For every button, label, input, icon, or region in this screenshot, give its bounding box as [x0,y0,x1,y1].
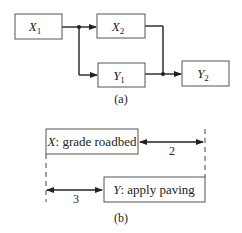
caption-a: (a) [114,92,127,106]
activity-y: Y: apply paving [104,177,205,202]
node-x2: X2 [97,14,145,38]
diagram-a: X1 X2 Y1 Y2 (a) [15,14,229,106]
diagram-canvas: X1 X2 Y1 Y2 (a) X: grade roadbed Y: appl… [0,0,242,233]
activity-x: X: grade roadbed [46,129,138,154]
node-x1: X1 [15,14,62,39]
connector-merge-y2 [145,26,181,76]
lag-finish-value: 2 [169,144,175,158]
lag-start-value: 3 [73,192,79,206]
junction-dot-merge [161,72,165,76]
node-y1: Y1 [98,63,145,87]
lag-arrow-start: 3 [47,190,102,206]
junction-dot-split [77,25,81,29]
caption-b: (b) [114,211,128,225]
svg-text:X: grade roadbed: X: grade roadbed [47,134,137,149]
node-y2: Y2 [182,61,229,86]
svg-text:Y: apply paving: Y: apply paving [113,182,195,197]
connector-x1-split [62,25,97,75]
diagram-b: X: grade roadbed Y: apply paving 2 3 (b) [46,129,205,225]
lag-arrow-finish: 2 [140,142,203,158]
